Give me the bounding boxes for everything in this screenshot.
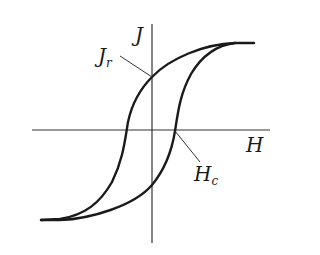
remanence-label: Jr <box>98 46 112 66</box>
y-axis-label: J <box>135 25 143 45</box>
upper-branch-curve <box>41 43 254 220</box>
jr-leader-line <box>120 56 152 77</box>
coercivity-label: Hc <box>194 164 218 184</box>
x-axis-label: H <box>246 135 263 155</box>
lower-branch-curve <box>41 43 235 220</box>
hc-leader-line <box>175 131 200 162</box>
